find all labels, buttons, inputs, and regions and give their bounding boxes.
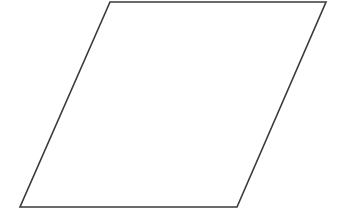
diagram-canvas	[0, 0, 344, 217]
parallelogram-shape	[20, 2, 326, 207]
